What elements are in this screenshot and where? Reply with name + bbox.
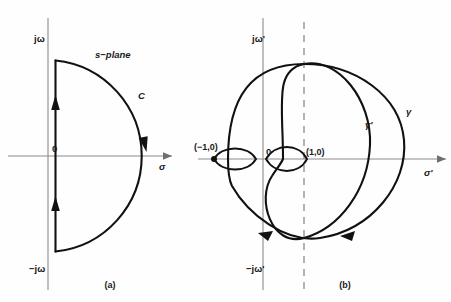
panel-b-gamma-label: γ <box>406 106 412 117</box>
figure-svg: jω −jω σ 0 s−plane C (a) <box>0 0 451 302</box>
panel-b-real-axis-arrowhead <box>437 155 446 163</box>
panel-a: jω −jω σ 0 s−plane C (a) <box>8 18 172 290</box>
panel-b-jomega-prime-label: jω' <box>251 33 265 44</box>
panel-b-caption: (b) <box>339 280 351 290</box>
panel-b-gamma-prime-label: γ' <box>365 119 373 130</box>
panel-a-upper-direction-arrow <box>51 95 60 110</box>
panel-a-negative-jomega-label: −jω <box>29 263 45 274</box>
panel-a-origin-label: 0 <box>52 143 57 154</box>
panel-b-negative-jomega-prime-label: −jω' <box>246 263 264 274</box>
panel-b-sigma-prime-label: σ' <box>424 167 433 178</box>
panel-a-lower-direction-arrow <box>51 196 60 211</box>
panel-a-arc-direction-arrow <box>139 136 148 152</box>
panel-b-origin-label: 0 <box>266 146 271 157</box>
figure-container: jω −jω σ 0 s−plane C (a) <box>0 0 451 302</box>
panel-a-s-plane-label: s−plane <box>95 49 131 60</box>
panel-a-caption: (a) <box>105 280 116 290</box>
panel-a-jomega-label: jω <box>33 33 45 44</box>
panel-a-contour-label: C <box>138 90 145 101</box>
panel-a-sigma-label: σ <box>159 161 166 172</box>
panel-b-gamma-prime-direction-arrow <box>258 231 273 241</box>
panel-b: jω' −jω' σ' 0 (−1,0) (1,0) γ γ' (b) <box>194 18 446 290</box>
panel-b-minus-one-point-label: (−1,0) <box>194 142 218 152</box>
panel-b-one-point-label: (1,0) <box>306 147 325 157</box>
panel-a-real-axis-arrowhead <box>163 152 172 160</box>
